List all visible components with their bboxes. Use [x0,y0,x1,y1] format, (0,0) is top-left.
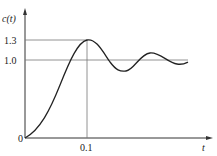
ytick-1-3: 1.3 [4,35,17,46]
response-curve [25,40,188,138]
x-axis-label: t [202,142,205,153]
ytick-1-0: 1.0 [4,55,17,66]
y-axis-label: c(t) [2,13,17,25]
y-axis-arrow-icon [23,8,27,15]
xtick-0-1: 0.1 [80,142,93,153]
x-axis-arrow-icon [206,136,213,140]
origin-label: 0 [18,133,23,144]
step-response-chart: c(t) 1.3 1.0 0 0.1 t [0,0,217,156]
